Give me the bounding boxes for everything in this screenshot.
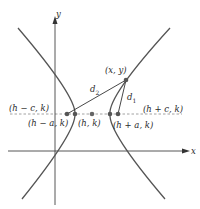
left-vertex-label: (h − a, k) <box>28 118 68 128</box>
distance-d2-line <box>67 80 126 114</box>
center-point <box>90 112 95 117</box>
left-focus-label: (h − c, k) <box>9 103 49 113</box>
right-focus-point <box>116 112 121 117</box>
y-axis-label: y <box>55 9 61 19</box>
center-label: (h, k) <box>78 118 101 128</box>
x-axis-label: x <box>191 146 196 156</box>
right-vertex-point <box>108 112 113 117</box>
hyperbola-diagram: y x (x, y) d2 d1 (h − c, k) (h − a, k) (… <box>0 0 200 209</box>
d1-label: d1 <box>127 92 136 104</box>
curve-point-label: (x, y) <box>105 65 127 75</box>
distance-d1-line <box>118 80 126 114</box>
right-vertex-label: (h + a, k) <box>113 120 153 130</box>
left-focus-point <box>65 112 70 117</box>
x-axis-arrow-icon <box>182 149 190 154</box>
curve-point <box>124 78 129 83</box>
right-focus-label: (h + c, k) <box>143 104 183 114</box>
left-vertex-point <box>73 112 78 117</box>
d2-label: d2 <box>90 84 99 96</box>
